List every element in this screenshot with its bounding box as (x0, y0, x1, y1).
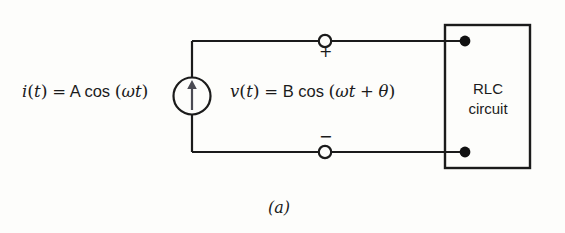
voltage-equals: = (264, 82, 278, 101)
theta-symbol: θ (378, 82, 388, 101)
current-arg-paren-open: ( (115, 81, 122, 101)
rlc-block-label: RLC circuit (446, 79, 530, 118)
current-cos: cos (84, 82, 110, 100)
rlc-top-connection-dot (460, 36, 471, 47)
current-paren-close: ) (41, 81, 48, 101)
voltage-plus-operator: + (360, 82, 374, 101)
voltage-arg-paren-close: ) (388, 81, 395, 101)
rlc-bottom-connection-dot (460, 147, 471, 158)
voltage-amplitude: B (283, 82, 294, 100)
current-amplitude: A (70, 82, 80, 100)
voltage-symbol: v (230, 82, 239, 101)
bottom-open-terminal-node (319, 146, 331, 158)
current-source-expression: i(t) = A cos (ωt) (22, 83, 148, 101)
omega-symbol: ω (122, 82, 135, 101)
voltage-expression: v(t) = B cos (ωt + θ) (230, 83, 395, 101)
figure-caption: (a) (268, 200, 290, 216)
voltage-arg: t (246, 82, 253, 101)
rlc-block-line1: RLC (446, 79, 530, 99)
current-arg: t (34, 82, 41, 101)
current-arg-paren-close: ) (142, 81, 149, 101)
polarity-plus-label: + (319, 44, 332, 60)
rlc-block-line2: circuit (446, 99, 530, 119)
current-time-var: t (135, 82, 142, 101)
voltage-time-var: t (349, 82, 356, 101)
voltage-omega-symbol: ω (335, 82, 348, 101)
voltage-paren-close: ) (253, 81, 260, 101)
voltage-cos: cos (298, 82, 324, 100)
circuit-figure: i(t) = A cos (ωt) v(t) = B cos (ωt + θ) … (0, 0, 565, 233)
polarity-minus-label: − (319, 129, 332, 145)
current-equals: = (52, 82, 66, 101)
